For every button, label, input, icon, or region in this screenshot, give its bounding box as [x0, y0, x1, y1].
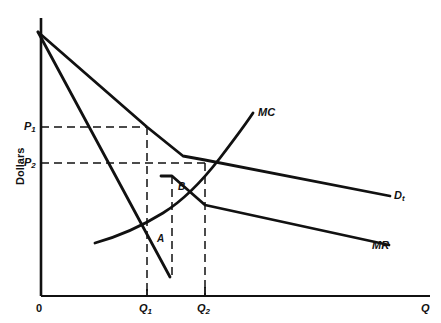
demand-curve-label: Dt — [394, 190, 405, 203]
x-axis-title: Q — [421, 303, 430, 314]
marginal-cost-label: MC — [258, 107, 275, 118]
x-tick-label-q1: Q1 — [139, 303, 152, 316]
demand-base: D — [394, 189, 402, 201]
annotation-point-a: A — [157, 233, 164, 244]
q2-subscript: 2 — [206, 307, 210, 316]
demand-subscript: t — [402, 194, 405, 203]
x-origin-label: 0 — [36, 303, 42, 314]
q1-base: Q — [139, 302, 148, 314]
y-tick-label-p2: P2 — [24, 157, 36, 170]
marginal-revenue-label: MR — [372, 240, 389, 251]
p1-subscript: 1 — [31, 125, 35, 134]
q2-base: Q — [197, 302, 206, 314]
x-tick-label-q2: Q2 — [197, 303, 210, 316]
demand-curve — [38, 32, 390, 196]
annotation-point-b: B — [178, 181, 185, 192]
chart-canvas — [0, 0, 441, 323]
kinked-demand-chart: Dollars P1 P2 0 Q1 Q2 Q MC Dt MR A B — [0, 0, 441, 323]
y-tick-label-p1: P1 — [24, 121, 36, 134]
q1-subscript: 1 — [148, 307, 152, 316]
p2-subscript: 2 — [31, 161, 35, 170]
